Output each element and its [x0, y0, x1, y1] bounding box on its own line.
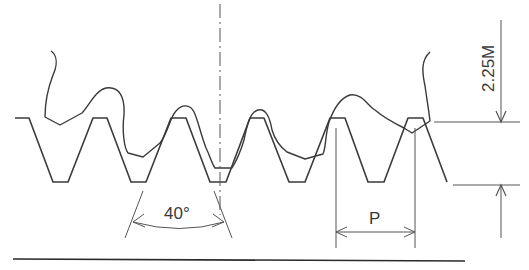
tooth-depth-label: 2.25M: [479, 45, 498, 92]
angle-line-left: [125, 191, 143, 238]
pitch-label: P: [369, 209, 380, 228]
angle-line-right: [214, 191, 232, 238]
rack-gear-diagram: 40° P 2.25M: [0, 0, 529, 270]
rack-profile: [15, 118, 447, 182]
pressure-angle-label: 40°: [164, 204, 190, 223]
angle-arrow-left: [133, 214, 145, 227]
baseline: [13, 259, 465, 261]
